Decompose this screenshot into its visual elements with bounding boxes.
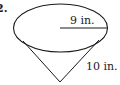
problem-number: 2. (0, 2, 7, 15)
cone-diagram: 2. 9 in. 10 in. (0, 0, 120, 85)
radius-label: 9 in. (70, 14, 95, 27)
slant-height-label: 10 in. (86, 60, 118, 73)
cone-left-side (23, 41, 60, 82)
